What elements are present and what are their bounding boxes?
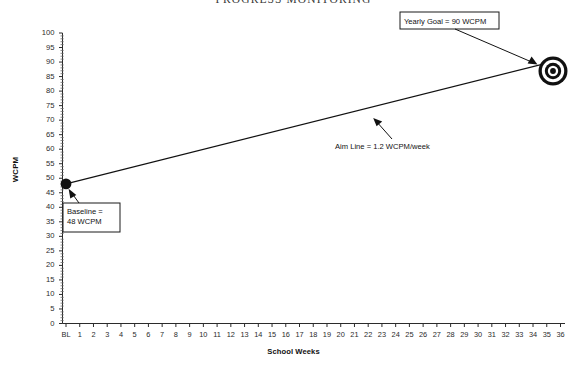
x-tick-label: 4 [119, 331, 123, 339]
x-tick-label: 30 [474, 331, 482, 339]
x-tick-label: 34 [529, 331, 537, 339]
y-tick-label: 40 [31, 203, 55, 211]
baseline-callout-line-1: Baseline = [67, 207, 103, 217]
x-tick-label: 32 [501, 331, 509, 339]
y-tick-label: 50 [31, 174, 55, 182]
y-tick-label: 100 [31, 29, 55, 37]
x-tick-label: BL [61, 331, 70, 339]
y-tick-label: 20 [31, 261, 55, 269]
x-tick-label: 9 [188, 331, 192, 339]
x-tick-label: 16 [282, 331, 290, 339]
aim-line-leader-arrow [373, 118, 392, 139]
x-tick-label: 35 [543, 331, 551, 339]
x-tick-label: 11 [213, 331, 221, 339]
x-tick-label: 20 [337, 331, 345, 339]
x-tick-label: 1 [78, 331, 82, 339]
aim-line [66, 62, 551, 184]
y-tick-label: 45 [31, 189, 55, 197]
aim-line-callout-label: Aim Line = 1.2 WCPM/week [335, 142, 430, 152]
baseline-point-marker [61, 179, 72, 190]
x-tick-label: 6 [146, 331, 150, 339]
x-tick-label: 15 [268, 331, 276, 339]
x-tick-label: 18 [309, 331, 317, 339]
x-tick-label: 13 [240, 331, 248, 339]
yearly-goal-callout-label: Yearly Goal = 90 WCPM [404, 17, 486, 27]
y-tick-label: 30 [31, 232, 55, 240]
x-tick-label: 21 [350, 331, 358, 339]
y-tick-label: 65 [31, 131, 55, 139]
x-tick-label: 36 [556, 331, 564, 339]
y-tick-label: 85 [31, 73, 55, 81]
y-tick-label: 25 [31, 247, 55, 255]
x-tick-label: 29 [460, 331, 468, 339]
x-tick-label: 10 [199, 331, 207, 339]
x-axis-title: School Weeks [0, 347, 587, 356]
chart-canvas [0, 0, 587, 372]
x-tick-label: 12 [227, 331, 235, 339]
x-tick-label: 17 [295, 331, 303, 339]
x-axis-ticks [66, 324, 561, 328]
x-tick-label: 31 [488, 331, 496, 339]
x-tick-label: 14 [254, 331, 262, 339]
x-tick-label: 24 [392, 331, 400, 339]
baseline-callout-line-2: 48 WCPM [67, 217, 103, 227]
goal-point-bullseye [539, 57, 568, 86]
y-tick-label: 90 [31, 58, 55, 66]
y-tick-label: 5 [31, 305, 55, 313]
y-tick-label: 70 [31, 116, 55, 124]
y-tick-label: 0 [31, 320, 55, 328]
x-tick-label: 25 [405, 331, 413, 339]
x-tick-label: 23 [378, 331, 386, 339]
y-tick-label: 75 [31, 102, 55, 110]
x-tick-label: 28 [446, 331, 454, 339]
x-tick-label: 3 [105, 331, 109, 339]
yearly-goal-leader-arrow [455, 29, 538, 65]
x-tick-label: 22 [364, 331, 372, 339]
x-tick-label: 2 [91, 331, 95, 339]
y-tick-label: 95 [31, 44, 55, 52]
x-tick-label: 27 [433, 331, 441, 339]
y-tick-label: 60 [31, 145, 55, 153]
y-axis-title: WCPM [11, 146, 20, 194]
y-tick-label: 80 [31, 87, 55, 95]
y-tick-label: 55 [31, 160, 55, 168]
y-tick-label: 10 [31, 290, 55, 298]
y-tick-label: 35 [31, 218, 55, 226]
baseline-callout-label: Baseline = 48 WCPM [67, 207, 103, 227]
x-tick-label: 33 [515, 331, 523, 339]
x-tick-label: 5 [133, 331, 137, 339]
x-tick-label: 7 [160, 331, 164, 339]
x-tick-label: 8 [174, 331, 178, 339]
baseline-leader-arrow [69, 189, 79, 203]
progress-monitoring-chart: PROGRESS MONITORING [0, 0, 587, 372]
y-tick-label: 15 [31, 276, 55, 284]
x-tick-label: 19 [323, 331, 331, 339]
x-tick-label: 26 [419, 331, 427, 339]
